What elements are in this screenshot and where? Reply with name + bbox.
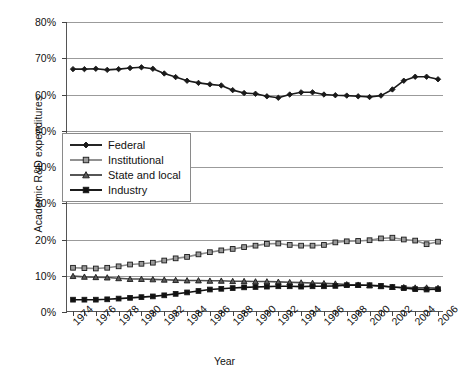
x-axis-title: Year [0, 355, 449, 367]
legend-item-federal: Federal [69, 138, 181, 152]
legend-marker-square-icon [69, 183, 103, 197]
y-axis-tick-label: 60% [16, 89, 56, 101]
y-axis-tick-label: 10% [16, 270, 56, 282]
y-axis-tick-label: 70% [16, 52, 56, 64]
y-axis-tick-label: 80% [16, 16, 56, 28]
legend-marker-diamond-icon [69, 138, 103, 152]
legend-item-industry: Industry [69, 183, 181, 197]
legend-marker-square-icon [69, 153, 103, 167]
legend-marker-triangle-icon [69, 168, 103, 182]
y-axis-tick-label: 40% [16, 161, 56, 173]
series-industry [71, 283, 441, 302]
legend-label: State and local [108, 168, 181, 182]
legend-label: Institutional [108, 153, 164, 167]
legend-label: Federal [108, 138, 145, 152]
legend-item-state-and-local: State and local [69, 168, 181, 182]
series-institutional [71, 235, 441, 271]
y-axis-tick-label: 20% [16, 234, 56, 246]
y-axis-tick [62, 312, 67, 313]
y-axis-tick-label: 0% [16, 306, 56, 318]
y-axis-tick-label: 30% [16, 197, 56, 209]
series-federal [70, 65, 440, 101]
legend-item-institutional: Institutional [69, 153, 181, 167]
y-axis-tick-label: 50% [16, 125, 56, 137]
chart-legend: FederalInstitutionalState and localIndus… [62, 133, 191, 202]
legend-label: Industry [108, 183, 147, 197]
